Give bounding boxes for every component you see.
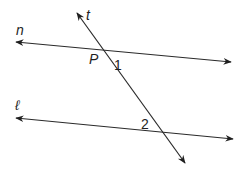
label-angle-1: 1 bbox=[114, 57, 122, 73]
line-t-transversal bbox=[77, 13, 185, 163]
label-l: ℓ bbox=[14, 97, 20, 113]
line-n bbox=[16, 42, 231, 62]
label-t: t bbox=[86, 7, 91, 23]
label-point-p: P bbox=[89, 51, 99, 67]
label-n: n bbox=[16, 22, 24, 38]
line-l bbox=[16, 118, 233, 139]
label-angle-2: 2 bbox=[141, 116, 149, 132]
parallel-lines-transversal-diagram: t n P 1 ℓ 2 bbox=[0, 0, 248, 173]
